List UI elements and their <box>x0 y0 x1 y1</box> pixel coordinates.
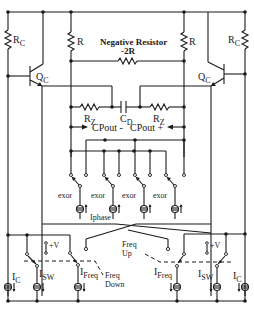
resistor-rc-right: RC <box>228 12 248 296</box>
svg-text:IFreq: IFreq <box>154 266 172 280</box>
cpout-plus: CPout + <box>130 122 186 133</box>
svg-text:QC: QC <box>36 71 49 85</box>
svg-text:exor: exor <box>153 191 168 200</box>
plus-v-right: +V <box>206 241 221 254</box>
transistor-qc-right: QC <box>140 12 245 296</box>
svg-text:RC: RC <box>228 34 240 48</box>
svg-text:QC: QC <box>198 71 211 85</box>
transistor-qc-left: QC <box>8 12 112 296</box>
svg-text:CPout -: CPout - <box>92 122 123 133</box>
exor-switch-1: exor <box>58 140 88 205</box>
circuit-diagram: RC RC QC QC R <box>0 0 254 312</box>
svg-text:exor: exor <box>91 191 106 200</box>
ic-right-source: IC <box>233 270 249 292</box>
freq-up-label-1: Freq <box>122 240 137 249</box>
plus-v-left: +V <box>45 241 60 254</box>
freq-down-label-1: Freq <box>105 271 120 280</box>
svg-text:CPout +: CPout + <box>130 122 164 133</box>
svg-text:-2R: -2R <box>121 46 135 56</box>
svg-text:IC: IC <box>12 271 21 285</box>
resistor-r-right: R <box>181 12 196 157</box>
ic-left-source: IC <box>5 271 21 292</box>
svg-text:IC: IC <box>233 270 242 284</box>
svg-text:exor: exor <box>58 191 73 200</box>
cpout-minus: CPout - <box>69 122 123 133</box>
exor-switch-2: exor <box>91 151 121 205</box>
resistor-rc-left: RC <box>5 12 25 296</box>
svg-text:exor: exor <box>122 191 137 200</box>
rz-cd-network: RZ CD RZ <box>69 101 186 127</box>
exor-switch-3: exor <box>122 140 152 205</box>
ifreq-left-source: IFreq <box>75 266 99 292</box>
svg-text:R: R <box>77 36 84 47</box>
isw-left-source: ISW <box>34 268 55 292</box>
svg-text:R: R <box>189 36 196 47</box>
freq-down-label-2: Down <box>105 280 125 289</box>
svg-text:ISW: ISW <box>39 268 55 282</box>
iphase-sources: Iphase <box>77 204 183 222</box>
svg-text:RC: RC <box>13 34 25 48</box>
freq-up-label-2: Up <box>122 249 132 258</box>
negative-resistor: Negative Resistor -2R <box>71 37 184 64</box>
isw-right-source: ISW <box>198 268 221 292</box>
svg-text:Iphase: Iphase <box>90 213 111 222</box>
resistor-r-left: R <box>68 12 84 157</box>
exor-switch-4: exor <box>153 140 186 205</box>
svg-text:+V: +V <box>49 241 60 250</box>
ifreq-right-source: IFreq <box>154 266 181 292</box>
svg-text:+V: +V <box>210 241 221 250</box>
svg-text:IFreq: IFreq <box>80 266 98 280</box>
